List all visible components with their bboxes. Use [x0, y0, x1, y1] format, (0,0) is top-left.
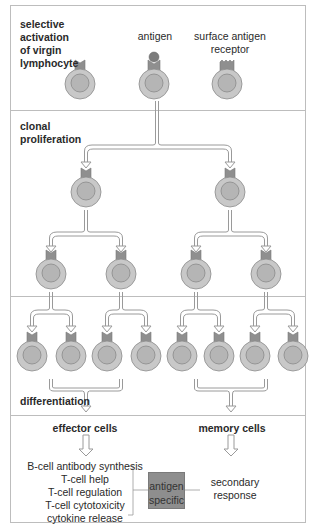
memory-cells-label: memory cells — [192, 422, 272, 435]
arrow-branch-inner — [88, 149, 229, 162]
down-arrow-icon — [224, 435, 238, 456]
arrowhead-icon — [250, 326, 260, 332]
nucleus-icon — [210, 346, 228, 364]
nucleus-icon — [42, 264, 60, 282]
receptor-label-line1: surface antigen — [190, 30, 270, 43]
secondary-response-label: secondary response — [205, 476, 265, 502]
arrow-branch-right — [268, 308, 295, 326]
arrow-stem — [229, 210, 232, 230]
arrow-branch-left — [181, 308, 195, 326]
arrow-stem — [156, 101, 159, 143]
arrow-branch-inner — [198, 236, 265, 246]
nucleus-icon — [284, 346, 302, 364]
arrow-branch-right — [88, 230, 123, 246]
arrow-stem — [265, 292, 268, 308]
secondary-line1: secondary — [205, 476, 265, 489]
nucleus-icon — [98, 346, 116, 364]
title-line: lymphocyte — [20, 57, 78, 70]
arrow-branch-left — [50, 230, 85, 246]
title-line: activation — [20, 31, 78, 44]
nucleus-icon — [23, 346, 41, 364]
arrowhead-icon — [66, 326, 76, 332]
nucleus-icon — [187, 264, 205, 282]
secondary-line2: response — [205, 489, 265, 502]
arrowhead-icon — [102, 326, 112, 332]
nucleus-icon — [62, 346, 80, 364]
nucleus-icon — [257, 264, 275, 282]
nucleus-icon — [173, 346, 191, 364]
title-line: of virgin — [20, 44, 78, 57]
nucleus-icon — [77, 182, 95, 200]
arrow-branch-right — [159, 143, 232, 162]
nucleus-icon — [246, 346, 264, 364]
merge-right — [233, 379, 268, 406]
arrow-branch-left — [254, 308, 265, 326]
section-title-proliferation: clonal proliferation — [20, 120, 81, 146]
arrow-branch-inner — [184, 314, 218, 326]
clonal-selection-diagram: selective activation of virgin lymphocyt… — [0, 0, 315, 528]
arrowhead-icon — [141, 326, 151, 332]
nucleus-icon — [71, 74, 89, 92]
arrow-stem — [195, 292, 198, 308]
arrowhead-icon — [81, 162, 91, 168]
effector-function-item: T-cell cytotoxicity — [20, 499, 150, 512]
title-line: selective — [20, 18, 78, 31]
arrow-stem — [120, 292, 123, 308]
differentiation-label: differentiation — [20, 395, 90, 408]
title-line: clonal — [20, 120, 81, 133]
nucleus-icon — [218, 74, 236, 92]
arrowhead-icon — [214, 326, 224, 332]
antigen-icon — [149, 52, 159, 62]
receptor-label: surface antigen receptor — [190, 30, 270, 56]
merge-right — [88, 379, 123, 406]
arrowhead-icon — [225, 162, 235, 168]
arrowhead-icon — [177, 326, 187, 332]
nucleus-icon — [145, 74, 163, 92]
effector-functions-list: B-cell antibody synthesis T-cell help T-… — [20, 460, 150, 525]
effector-function-item: T-cell regulation — [20, 486, 150, 499]
antigen-label: antigen — [130, 30, 180, 43]
arrow-branch-left — [106, 308, 120, 326]
nucleus-icon — [221, 182, 239, 200]
arrowhead-icon — [27, 326, 37, 332]
arrow-branch-inner — [34, 314, 70, 326]
arrow-branch-right — [232, 230, 268, 246]
arrowhead-icon — [288, 326, 298, 332]
effector-cells-label: effector cells — [45, 422, 125, 435]
arrow-branch-inner — [109, 314, 145, 326]
diagram-artwork — [0, 0, 315, 528]
nucleus-icon — [112, 264, 130, 282]
arrowhead-icon — [226, 406, 236, 412]
effector-function-item: T-cell help — [20, 473, 150, 486]
arrow-branch-left — [85, 143, 156, 162]
receptor-label-line2: receptor — [190, 43, 270, 56]
merge-inner — [198, 379, 265, 388]
arrow-branch-right — [123, 308, 148, 326]
arrow-stem — [50, 292, 53, 308]
arrow-branch-inner — [53, 236, 120, 246]
antigen-specific-box: antigen specific — [148, 472, 185, 509]
arrow-branch-left — [195, 230, 229, 246]
nucleus-icon — [137, 346, 155, 364]
box-line2: specific — [149, 493, 184, 507]
merge-inner — [53, 379, 120, 388]
merge-left — [195, 379, 230, 406]
arrow-branch-inner — [257, 314, 292, 326]
down-arrow-icon — [79, 435, 93, 456]
section-title-activation: selective activation of virgin lymphocyt… — [20, 18, 78, 70]
effector-function-item: B-cell antibody synthesis — [20, 460, 150, 473]
effector-function-item: cytokine release — [20, 512, 150, 525]
title-line: proliferation — [20, 133, 81, 146]
box-line1: antigen — [149, 479, 184, 493]
arrow-stem — [85, 210, 88, 230]
